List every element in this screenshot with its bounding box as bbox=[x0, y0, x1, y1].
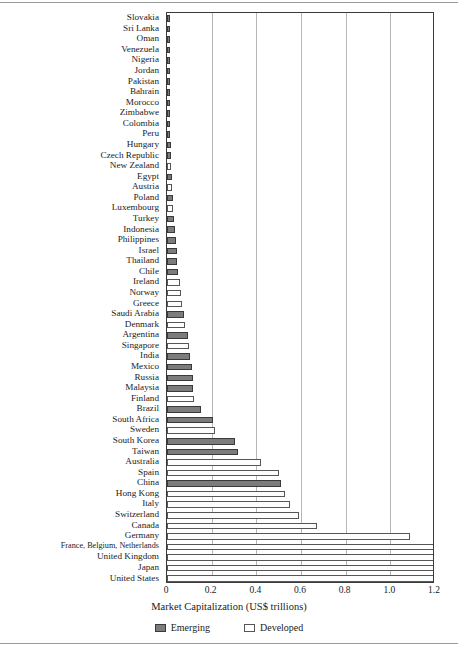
bar-india bbox=[167, 353, 190, 360]
bar-row bbox=[167, 330, 433, 341]
category-label-thailand: Thailand bbox=[126, 255, 159, 265]
bar-hong-kong bbox=[167, 491, 285, 498]
bar-mexico bbox=[167, 364, 192, 371]
category-label-israel: Israel bbox=[139, 245, 159, 255]
bar-row bbox=[167, 161, 433, 172]
x-axis-title: Market Capitalization (US$ trillions) bbox=[0, 601, 458, 612]
bar-row bbox=[167, 309, 433, 320]
bar-row bbox=[167, 425, 433, 436]
category-label-denmark: Denmark bbox=[125, 319, 159, 329]
category-label-poland: Poland bbox=[133, 192, 159, 202]
category-label-pakistan: Pakistan bbox=[128, 76, 159, 86]
bar-austria bbox=[167, 184, 172, 191]
bar-sweden bbox=[167, 427, 215, 434]
bar-row bbox=[167, 224, 433, 235]
plot-area bbox=[166, 12, 434, 583]
bar-czech-republic bbox=[167, 152, 171, 159]
bar-row bbox=[167, 373, 433, 384]
bar-row bbox=[167, 383, 433, 394]
legend-item-developed: Developed bbox=[244, 622, 303, 633]
bar-row bbox=[167, 140, 433, 151]
category-label-jordan: Jordan bbox=[135, 65, 160, 75]
category-label-mexico: Mexico bbox=[131, 361, 159, 371]
x-tick-0.2: 0.2 bbox=[205, 585, 217, 595]
category-label-malaysia: Malaysia bbox=[125, 382, 159, 392]
bar-row bbox=[167, 108, 433, 119]
bar-colombia bbox=[167, 121, 170, 128]
bar-spain bbox=[167, 470, 279, 477]
bar-poland bbox=[167, 195, 173, 202]
category-label-canada: Canada bbox=[131, 520, 159, 530]
bar-united-kingdom bbox=[167, 554, 434, 561]
bar-row bbox=[167, 24, 433, 35]
bar-row bbox=[167, 256, 433, 267]
bar-row bbox=[167, 468, 433, 479]
category-label-colombia: Colombia bbox=[123, 118, 159, 128]
bar-indonesia bbox=[167, 226, 175, 233]
bar-sri-lanka bbox=[167, 26, 170, 33]
bar-south-korea bbox=[167, 438, 235, 445]
bar-row bbox=[167, 246, 433, 257]
bar-chile bbox=[167, 269, 178, 276]
legend-label-emerging: Emerging bbox=[171, 622, 210, 633]
bar-russia bbox=[167, 375, 193, 382]
bar-row bbox=[167, 478, 433, 489]
bar-row bbox=[167, 436, 433, 447]
category-label-australia: Australia bbox=[125, 456, 159, 466]
bar-malaysia bbox=[167, 385, 193, 392]
bar-turkey bbox=[167, 216, 174, 223]
bar-egypt bbox=[167, 174, 172, 181]
bar-row bbox=[167, 457, 433, 468]
bar-row bbox=[167, 320, 433, 331]
page-rule-top bbox=[0, 2, 458, 3]
category-label-japan: Japan bbox=[138, 562, 159, 572]
bar-series bbox=[167, 13, 433, 582]
category-label-germany: Germany bbox=[125, 530, 159, 540]
category-label-hong-kong: Hong Kong bbox=[116, 488, 159, 498]
x-tick-1.2: 1.2 bbox=[428, 585, 440, 595]
category-label-nigeria: Nigeria bbox=[131, 54, 159, 64]
bar-row bbox=[167, 447, 433, 458]
category-axis-labels: SlovakiaSri LankaOmanVenezuelaNigeriaJor… bbox=[0, 12, 163, 583]
bar-row bbox=[167, 129, 433, 140]
bar-row bbox=[167, 521, 433, 532]
bar-china bbox=[167, 480, 281, 487]
category-label-indonesia: Indonesia bbox=[123, 224, 159, 234]
category-label-morocco: Morocco bbox=[126, 97, 159, 107]
x-tick-1.0: 1.0 bbox=[383, 585, 395, 595]
category-label-sri-lanka: Sri Lanka bbox=[123, 23, 159, 33]
category-label-italy: Italy bbox=[142, 498, 159, 508]
bar-france-belgium-netherlands bbox=[167, 544, 434, 551]
bar-argentina bbox=[167, 332, 188, 339]
legend-swatch-emerging bbox=[155, 624, 166, 632]
bar-australia bbox=[167, 459, 261, 466]
bar-new-zealand bbox=[167, 163, 171, 170]
category-label-philippines: Philippines bbox=[118, 234, 159, 244]
category-label-egypt: Egypt bbox=[137, 171, 159, 181]
category-label-brazil: Brazil bbox=[137, 403, 159, 413]
bar-israel bbox=[167, 248, 177, 255]
category-label-switzerland: Switzerland bbox=[115, 509, 159, 519]
bar-germany bbox=[167, 533, 410, 540]
bar-row bbox=[167, 552, 433, 563]
bar-row bbox=[167, 489, 433, 500]
bar-saudi-arabia bbox=[167, 311, 184, 318]
category-label-bahrain: Bahrain bbox=[130, 86, 159, 96]
category-label-norway: Norway bbox=[129, 287, 159, 297]
bar-philippines bbox=[167, 237, 176, 244]
bar-hungary bbox=[167, 142, 171, 149]
bar-row bbox=[167, 87, 433, 98]
bar-south-africa bbox=[167, 417, 213, 424]
bar-row bbox=[167, 404, 433, 415]
bar-oman bbox=[167, 36, 170, 43]
bar-row bbox=[167, 510, 433, 521]
bar-row bbox=[167, 563, 433, 574]
category-label-china: China bbox=[137, 477, 159, 487]
bar-morocco bbox=[167, 100, 170, 107]
category-label-finland: Finland bbox=[131, 393, 159, 403]
category-label-oman: Oman bbox=[137, 33, 159, 43]
category-label-singapore: Singapore bbox=[122, 340, 159, 350]
legend-swatch-developed bbox=[244, 624, 255, 632]
bar-row bbox=[167, 531, 433, 542]
category-label-south-africa: South Africa bbox=[112, 414, 159, 424]
